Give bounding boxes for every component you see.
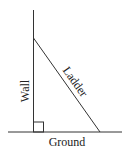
ladder-diagram: Wall Ladder Ground bbox=[0, 0, 129, 152]
wall-label: Wall bbox=[18, 79, 32, 102]
right-angle-marker bbox=[34, 122, 44, 132]
ladder-line bbox=[34, 38, 101, 132]
ground-label: Ground bbox=[49, 135, 86, 149]
